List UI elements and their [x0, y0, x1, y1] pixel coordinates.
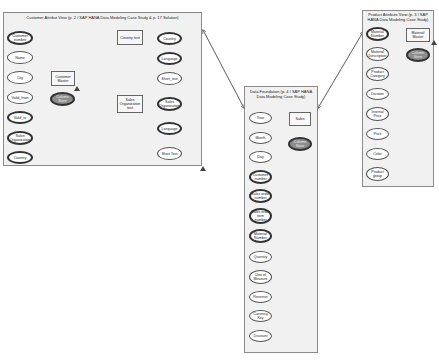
attr-month[interactable]: Month	[249, 132, 272, 144]
sales-table[interactable]: Sales	[289, 112, 311, 126]
product-view-title: Product Attribute View (p. 3 / SAP HANA …	[364, 12, 432, 22]
attr-revenue[interactable]: Revenue	[249, 291, 272, 303]
attr-city[interactable]: City	[7, 71, 33, 84]
attr-sales-order-number[interactable]: Sales order number	[249, 189, 272, 203]
attr-unit-of-measure[interactable]: Unit of Measure	[249, 270, 272, 284]
attr-country[interactable]: Country	[7, 151, 33, 164]
attr-customer-number[interactable]: Customer number	[7, 31, 33, 45]
customer-view-title: Customer Attribut View (p. 2 / SAP HANA …	[5, 15, 200, 20]
attr-quantity[interactable]: Quantity	[249, 251, 272, 263]
attr-division[interactable]: Division	[366, 88, 389, 100]
attr-sales-order-item-number[interactable]: Sales order item number	[249, 208, 272, 224]
attr-df-material-number[interactable]: Material Number	[249, 229, 272, 243]
customer-column-store: Column Store	[50, 92, 75, 106]
attr-product-group[interactable]: Product group	[366, 167, 389, 181]
attr-product-category[interactable]: Product Category	[366, 67, 389, 81]
country-text-table[interactable]: Country text	[117, 30, 143, 45]
attr-sot-short-text[interactable]: Short Text	[157, 147, 182, 160]
attr-year[interactable]: Year	[249, 112, 272, 124]
attr-material-description[interactable]: Material Description	[366, 47, 389, 61]
attr-df-customer-number[interactable]: Customer number	[249, 170, 272, 184]
attr-ct-short-text[interactable]: Short_text	[157, 72, 182, 85]
attr-ct-country[interactable]: Country	[157, 32, 182, 45]
warning-triangle-icon	[200, 166, 206, 171]
attr-sales-organization[interactable]: Sales Organization	[7, 131, 33, 145]
sales-column-store: Column Store	[288, 137, 312, 151]
data-foundation-title: Data Foundation (p. 4 / SAP HANA Data Mo…	[248, 89, 314, 99]
attr-day[interactable]: Day	[249, 151, 272, 163]
attr-sot-language[interactable]: Language	[157, 122, 182, 135]
attr-discount[interactable]: Discount	[249, 330, 272, 342]
sales-organization-text-table[interactable]: Sales Organization text	[117, 95, 143, 113]
material-master-table[interactable]: Material Master	[406, 28, 430, 42]
warning-triangle-icon	[431, 40, 437, 45]
attr-ct-language[interactable]: Language	[157, 52, 182, 65]
attr-color[interactable]: Color	[366, 148, 389, 160]
customer-master-table[interactable]: Customer Master	[51, 71, 75, 86]
attr-sot-sales-organization[interactable]: Sales Organization	[157, 97, 182, 111]
attr-pv-material-number[interactable]: Material Number	[366, 27, 389, 41]
material-column-store: Column Store	[406, 48, 430, 62]
attr-internal-price[interactable]: Internal Price	[366, 107, 389, 121]
attr-name[interactable]: Name	[7, 51, 33, 64]
warning-triangle-icon	[74, 86, 80, 91]
attr-currency-key[interactable]: Currency Key	[249, 310, 272, 322]
attr-valid-to[interactable]: Valid_to	[7, 111, 33, 124]
attr-price[interactable]: Price	[366, 128, 389, 140]
attr-valid-from[interactable]: Valid_from	[7, 91, 33, 104]
